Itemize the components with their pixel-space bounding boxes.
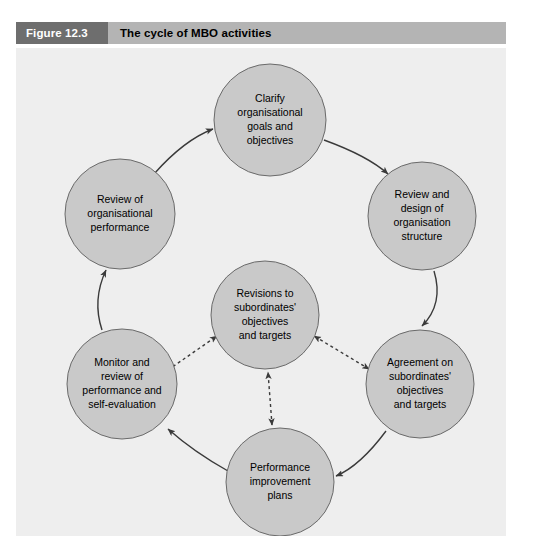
arc-performance-plans-to-monitor-review	[168, 429, 228, 471]
dashed-link-monitor-to-revisions	[168, 336, 217, 370]
arc-agreement-to-performance-plans	[336, 431, 386, 476]
node-label-line: and targets	[239, 329, 292, 341]
node-label-line: subordinates'	[389, 370, 451, 382]
node-review-design-structure[interactable]: Review and design of organisation struct…	[368, 162, 476, 270]
node-clarify-goals[interactable]: Clarify organisational goals and objecti…	[214, 64, 326, 176]
arc-monitor-review-to-review-performance	[98, 270, 106, 330]
figure-header: Figure 12.3 The cycle of MBO activities	[16, 22, 506, 44]
node-label-line: goals and	[247, 120, 293, 132]
node-agreement-subordinates[interactable]: Agreement on subordinates' objectives an…	[366, 330, 474, 438]
node-performance-improvement-plans[interactable]: Performance improvement plans	[226, 428, 334, 536]
arc-clarify-goals-to-review-design	[324, 140, 388, 174]
figure-container: Figure 12.3 The cycle of MBO activities	[0, 0, 544, 560]
node-label-line: plans	[267, 489, 292, 501]
figure-title-label: The cycle of MBO activities	[108, 22, 506, 44]
dashed-link-performance-plans-to-revisions	[268, 372, 272, 425]
diagram-panel: Review of organisational performance Cla…	[16, 48, 506, 536]
mbo-cycle-diagram: Review of organisational performance Cla…	[16, 48, 506, 536]
node-label-line: Revisions to	[236, 287, 293, 299]
node-label-line: Monitor and	[94, 356, 150, 368]
node-label-line: Agreement on	[387, 356, 453, 368]
dashed-link-agreement-to-revisions	[314, 336, 369, 369]
node-revisions-to-subordinates[interactable]: Revisions to subordinates' objectives an…	[211, 261, 319, 369]
arc-review-design-to-agreement	[422, 271, 437, 326]
node-label-line: organisational	[237, 106, 302, 118]
arc-review-performance-to-clarify-goals	[154, 129, 213, 174]
node-label-line: subordinates'	[234, 301, 296, 313]
node-label-line: structure	[402, 230, 443, 242]
node-label-line: improvement	[250, 475, 311, 487]
node-label-line: performance	[91, 221, 150, 233]
node-label-line: objectives	[397, 384, 444, 396]
node-label-line: organisation	[393, 216, 450, 228]
node-label-line: Clarify	[255, 92, 286, 104]
node-label-line: Review and	[395, 188, 450, 200]
node-label-line: objectives	[242, 315, 289, 327]
node-label-line: self-evaluation	[88, 398, 156, 410]
node-label-line: design of	[401, 202, 444, 214]
node-label-line: and targets	[394, 398, 447, 410]
node-monitor-review[interactable]: Monitor and review of performance and se…	[67, 329, 177, 439]
node-label-line: objectives	[247, 134, 294, 146]
node-label-line: organisational	[87, 207, 152, 219]
node-label-line: Performance	[250, 461, 310, 473]
figure-number-label: Figure 12.3	[16, 22, 108, 44]
node-label-line: Review of	[97, 193, 143, 205]
node-review-organisational-performance[interactable]: Review of organisational performance	[65, 159, 175, 269]
node-label-line: performance and	[82, 384, 162, 396]
node-label-line: review of	[101, 370, 143, 382]
